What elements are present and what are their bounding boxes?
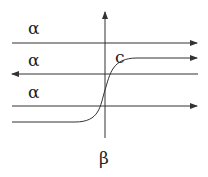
alpha-label-top: α — [28, 20, 39, 37]
alpha-label-middle: α — [28, 52, 39, 69]
beta-label: β — [99, 150, 109, 167]
alpha-label-bottom: α — [28, 84, 39, 101]
curve-label-c: c — [115, 49, 125, 66]
